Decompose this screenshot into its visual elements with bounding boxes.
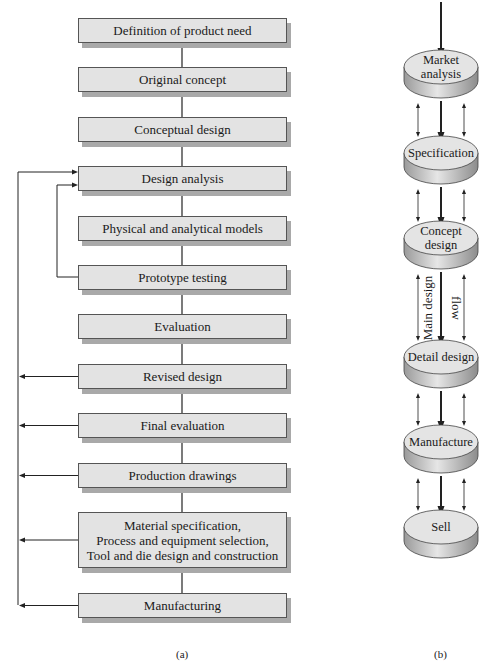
flow-label: flow — [448, 296, 464, 320]
caption-a: (a) — [176, 648, 188, 660]
stage-label-3: Concept design — [403, 224, 479, 252]
stage-label-4: Detail design — [403, 350, 479, 364]
stage-label-2: Specification — [403, 146, 479, 160]
stage-label-5: Manufacture — [403, 435, 479, 449]
stage-label-1: Market analysis — [403, 53, 479, 81]
caption-b: (b) — [434, 648, 447, 660]
stage-label-6: Sell — [403, 520, 479, 534]
main-design-label: Main design — [420, 276, 436, 341]
